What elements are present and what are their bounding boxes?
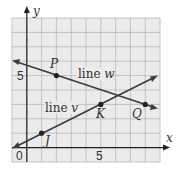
x-axis-label: x [166, 131, 173, 145]
x-tick-label-5: 5 [96, 149, 103, 163]
y-axis-arrow-icon [24, 6, 30, 13]
point-j [39, 131, 44, 136]
point-p-label: P [49, 57, 59, 71]
point-k-label: K [95, 107, 106, 121]
x-axis-arrow-icon [163, 145, 170, 151]
point-q [143, 102, 148, 107]
origin-label: 0 [16, 149, 23, 163]
point-p [54, 73, 59, 78]
y-tick-label-5: 5 [17, 69, 24, 83]
coordinate-plane: y x 0 5 5 P Q J K line w line v [0, 0, 178, 172]
y-axis-label: y [32, 4, 40, 18]
line-v-label: line v [45, 101, 78, 115]
line-w-label: line w [78, 67, 115, 81]
point-q-label: Q [132, 107, 142, 121]
